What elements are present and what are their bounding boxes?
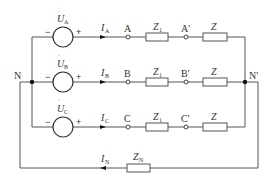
phasor-dot-a: · xyxy=(58,9,60,15)
label-n: N xyxy=(14,70,21,81)
load-impedance-a xyxy=(203,33,227,41)
voltage-source-b xyxy=(53,72,73,92)
current-sub-c: C xyxy=(105,118,109,124)
z1-sub-a: 1 xyxy=(159,27,162,33)
source-sub-c: C xyxy=(64,109,68,115)
line-impedance-c xyxy=(146,123,168,131)
node-label-c: C xyxy=(124,113,131,124)
node-label-c-prime: C' xyxy=(181,113,190,124)
load-impedance-b xyxy=(203,78,227,86)
current-sub-b: B xyxy=(105,73,109,79)
neutral-impedance xyxy=(127,164,150,172)
source-sub-b: B xyxy=(64,64,68,70)
zn-sub: N xyxy=(139,157,144,163)
phasor-dot-c: · xyxy=(58,98,60,104)
node-a-prime xyxy=(184,35,188,39)
z-label-c: Z xyxy=(211,111,217,122)
node-label-a: A xyxy=(124,23,132,34)
z-label-b: Z xyxy=(211,66,217,77)
label-n-prime: N' xyxy=(249,70,258,81)
current-arrow-b-icon xyxy=(100,80,106,84)
plus-sign-b: + xyxy=(76,72,81,82)
circuit-diagram: N N' − + U · A I A A Z 1 A' Z − + U B I … xyxy=(0,0,272,189)
minus-sign-a: − xyxy=(45,27,50,37)
neutral-wire-left xyxy=(20,82,127,168)
junction-n-prime xyxy=(243,80,247,84)
phasor-dot-b: · xyxy=(58,53,60,59)
voltage-source-c xyxy=(53,117,73,137)
current-sub-n: N xyxy=(105,159,110,165)
voltage-source-a xyxy=(53,27,73,47)
node-a xyxy=(126,35,130,39)
z-label-a: Z xyxy=(211,21,217,32)
z1-sub-b: 1 xyxy=(159,72,162,78)
node-label-b-prime: B' xyxy=(181,68,190,79)
current-arrow-n-icon xyxy=(100,166,106,170)
node-label-b: B xyxy=(124,68,131,79)
line-impedance-a xyxy=(146,33,168,41)
node-b-prime xyxy=(184,80,188,84)
plus-sign-a: + xyxy=(76,27,81,37)
minus-sign-c: − xyxy=(45,117,50,127)
node-b xyxy=(126,80,130,84)
current-arrow-c-icon xyxy=(100,125,106,129)
current-arrow-a-icon xyxy=(100,35,106,39)
load-impedance-c xyxy=(203,123,227,131)
node-label-a-prime: A' xyxy=(181,23,190,34)
node-c-prime xyxy=(184,125,188,129)
minus-sign-b: − xyxy=(45,72,50,82)
current-sub-a: A xyxy=(105,28,110,34)
z1-sub-c: 1 xyxy=(159,117,162,123)
plus-sign-c: + xyxy=(76,117,81,127)
source-sub-a: A xyxy=(64,19,69,25)
junction-n xyxy=(30,80,34,84)
node-c xyxy=(126,125,130,129)
line-impedance-b xyxy=(146,78,168,86)
